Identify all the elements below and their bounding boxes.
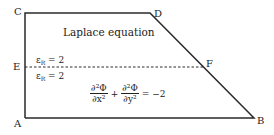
denominator: ∂x² [92,94,105,104]
plus-sign: + [111,89,119,99]
vertex-label-b: B [257,116,264,126]
vertex-label-e: E [13,62,20,72]
region-title-laplace: Laplace equation [63,27,155,37]
poisson-equation: ∂²Φ ∂x² + ∂²Φ ∂y² = −2 [90,83,166,104]
vertex-label-a: A [14,119,21,129]
numerator: ∂²Φ [90,83,108,94]
permittivity-value: = 2 [48,71,64,81]
vertex-label-c: C [14,7,22,17]
fraction-d2phi-dy2: ∂²Φ ∂y² [121,83,139,104]
permittivity-lower: εR = 2 [36,71,64,81]
epsilon-subscript: R [41,59,46,66]
numerator: ∂²Φ [121,83,139,94]
vertex-label-d: D [154,9,162,19]
permittivity-upper: εR = 2 [36,55,64,65]
epsilon-subscript: R [41,75,46,82]
permittivity-value: = 2 [48,55,64,65]
equation-rhs: = −2 [142,89,166,99]
denominator: ∂y² [123,94,136,104]
fraction-d2phi-dx2: ∂²Φ ∂x² [90,83,108,104]
vertex-label-f: F [206,59,213,69]
domain-diagram [0,0,274,135]
